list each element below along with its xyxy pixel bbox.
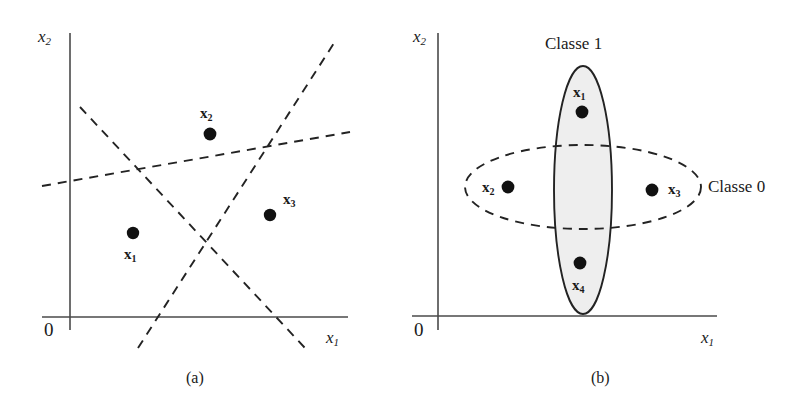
point-label-x2-a: x2: [200, 106, 213, 121]
point-label-x2-b: x2: [482, 180, 495, 195]
class-label-classe-0: Classe 0: [708, 178, 765, 195]
origin-label-a: 0: [44, 320, 54, 339]
data-point-x4-b: [574, 257, 587, 270]
point-label-x3-b: x3: [668, 182, 681, 197]
panel-b-graphic: [405, 0, 810, 411]
point-label-x4-b: x4: [572, 278, 585, 293]
point-label-x1-b: x1: [573, 85, 586, 100]
caption-a: (a): [186, 370, 204, 386]
x-axis-label-a: x1: [326, 329, 339, 346]
y-axis-label-b: x2: [413, 28, 426, 45]
point-label-x3-a: x3: [283, 192, 296, 207]
boundary-line-falling-a: [80, 107, 305, 348]
data-point-x2-b: [502, 181, 515, 194]
figure-container: x2 x1 0 x1 x2 x3 (a) x2 x1 0: [0, 0, 810, 411]
class-label-classe-1: Classe 1: [545, 35, 602, 52]
x-axis-label-b: x1: [701, 329, 714, 346]
panel-b: x2 x1 0 Classe 1 Classe 0 x1 x2 x3 x4 (b…: [405, 0, 810, 411]
panel-a: x2 x1 0 x1 x2 x3 (a): [0, 0, 405, 411]
data-point-x2-a: [204, 128, 217, 141]
boundary-line-shallow-a: [42, 132, 350, 186]
data-point-x3-a: [264, 209, 276, 221]
class-region-classe-1: [554, 66, 612, 314]
boundary-line-steep-a: [138, 40, 336, 348]
panel-a-graphic: [0, 0, 405, 411]
data-point-x3-b: [646, 184, 659, 197]
point-label-x1-a: x1: [124, 247, 137, 262]
origin-label-b: 0: [414, 320, 424, 339]
caption-b: (b): [591, 370, 610, 386]
y-axis-label-a: x2: [38, 28, 51, 45]
data-point-x1-b: [576, 106, 589, 119]
data-point-x1-a: [127, 227, 139, 239]
